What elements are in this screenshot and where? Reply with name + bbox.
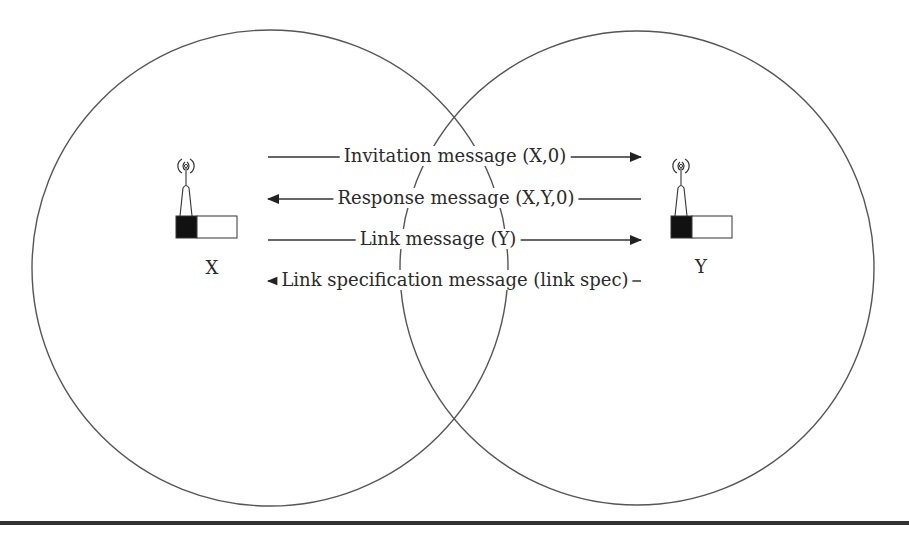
message-link-spec: Link specification message (link spec) — [277, 270, 632, 290]
message-invitation: Invitation message (X,0) — [340, 146, 571, 166]
message-link: Link message (Y) — [356, 229, 521, 249]
range-circle-y — [400, 31, 874, 505]
node-label-y: Y — [695, 257, 707, 277]
wireless-node-icon — [671, 159, 732, 238]
node-label-x: X — [206, 258, 219, 278]
range-circle-x — [32, 30, 508, 506]
wireless-node-icon — [176, 159, 237, 238]
bottom-rule — [0, 521, 909, 525]
message-response: Response message (X,Y,0) — [333, 188, 578, 208]
